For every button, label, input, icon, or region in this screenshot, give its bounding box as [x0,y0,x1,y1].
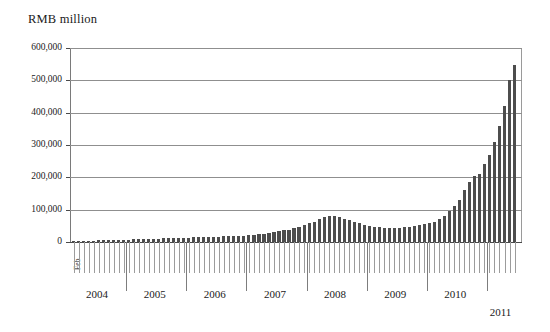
x-axis-month-tick [505,242,506,273]
x-axis-month-tick [269,242,270,273]
x-axis-month-tick [364,242,365,273]
bar-series [70,48,522,242]
bar [418,225,421,242]
bar [308,223,311,242]
x-axis-month-tick [419,242,420,273]
bar [438,219,441,242]
x-axis-month-tick [454,242,455,273]
x-axis-month-tick [214,242,215,273]
bar [463,190,466,242]
y-axis-labels: 600,000500,000400,000300,000200,000100,0… [0,0,62,332]
x-axis-month-tick [449,242,450,273]
bar [393,228,396,242]
x-axis-year-label: 2008 [317,288,353,300]
bar [343,219,346,242]
bar [453,206,456,242]
bar [493,142,496,242]
bar [323,217,326,242]
bar [458,200,461,242]
x-axis-month-tick [229,242,230,273]
y-axis-tick-label: 500,000 [31,75,62,85]
x-axis-month-tick [104,242,105,273]
x-axis-year-label: 2009 [377,288,413,300]
x-axis-month-tick [179,242,180,273]
bar [433,222,436,242]
bar [303,225,306,242]
chart-container: RMB million 600,000500,000400,000300,000… [0,0,550,332]
x-axis-month-tick [259,242,260,273]
bar [508,80,511,242]
x-axis-month-tick [299,242,300,273]
bar [448,211,451,242]
x-axis-month-tick [304,242,305,273]
x-axis-month-tick [194,242,195,273]
x-axis: Feb 20042005200620072008200920102011 [70,242,522,332]
x-axis-year-separator [307,242,308,291]
x-axis-month-tick [124,242,125,273]
bar [428,223,431,242]
x-axis-month-tick [374,242,375,273]
x-axis-month-tick [129,242,130,273]
bar [498,126,501,242]
x-axis-year-separator [367,242,368,291]
x-axis-year-separator [126,242,127,291]
x-axis-month-tick [424,242,425,273]
x-axis-month-tick [219,242,220,273]
bar [252,235,255,242]
x-axis-month-tick [464,242,465,273]
x-axis-month-tick [244,242,245,273]
x-axis-month-tick [394,242,395,273]
x-axis-month-tick [159,242,160,273]
x-axis-month-tick [139,242,140,273]
x-axis-month-tick [409,242,410,273]
x-axis-year-label: 2011 [482,306,518,318]
x-axis-year-separator [246,242,247,291]
y-axis-tick-label: 400,000 [31,108,62,118]
bar [423,224,426,242]
x-axis-month-tick [249,242,250,273]
x-axis-month-tick [284,242,285,273]
x-axis-year-label: 2007 [257,288,293,300]
x-axis-month-tick [404,242,405,273]
x-axis-month-tick [309,242,310,273]
y-axis-tick-mark [66,210,70,211]
x-axis-month-tick [154,242,155,273]
x-axis-month-tick [510,242,511,273]
y-axis-tick-mark [66,145,70,146]
x-axis-month-tick [119,242,120,273]
y-axis-tick-label: 600,000 [31,43,62,53]
x-axis-month-tick [184,242,185,273]
bar [503,106,506,242]
x-axis-month-tick [314,242,315,273]
x-axis-month-tick [169,242,170,273]
x-axis-month-tick [414,242,415,273]
bar [398,228,401,242]
bar [328,216,331,242]
x-axis-month-tick [444,242,445,273]
y-axis-tick-label: 200,000 [31,172,62,182]
x-axis-month-tick [344,242,345,273]
bar [473,176,476,242]
bar [413,226,416,242]
x-axis-month-tick [254,242,255,273]
x-axis-year-separator [427,242,428,291]
x-axis-month-tick [74,242,75,273]
bar [287,230,290,242]
x-axis-month-tick [474,242,475,273]
y-axis-tick-mark [66,113,70,114]
x-axis-month-tick [359,242,360,273]
y-axis-tick-label: 300,000 [31,140,62,150]
plot-area [70,48,522,242]
x-axis-month-tick [99,242,100,273]
x-axis-month-tick [459,242,460,273]
x-axis-month-tick [174,242,175,273]
bar [313,222,316,242]
x-axis-month-tick [434,242,435,273]
bar [468,182,471,242]
bar [348,220,351,242]
bar [297,227,300,242]
bar [513,65,516,242]
bar [257,234,260,242]
bar [368,226,371,242]
bar [277,231,280,242]
